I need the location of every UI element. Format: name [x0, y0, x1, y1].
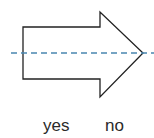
- arrow-shape: [23, 12, 143, 97]
- arrow-symmetry-diagram: [0, 0, 154, 138]
- option-no[interactable]: no: [105, 116, 124, 136]
- arrow-svg: [0, 0, 154, 138]
- option-yes[interactable]: yes: [43, 116, 69, 136]
